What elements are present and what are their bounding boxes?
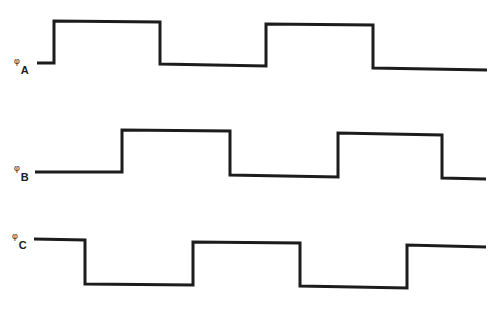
phi-symbol: φ: [14, 163, 20, 173]
phase-b-subscript: B: [21, 171, 29, 183]
phase-c-waveform: [34, 239, 486, 288]
phase-c-subscript: C: [19, 239, 27, 251]
phase-b-label: φB: [14, 164, 28, 180]
phase-a-waveform: [37, 21, 487, 70]
phase-a-subscript: A: [21, 64, 29, 76]
timing-diagram: [0, 0, 502, 309]
phi-symbol: φ: [12, 231, 18, 241]
phase-c-label: φC: [12, 232, 26, 248]
phi-symbol: φ: [14, 56, 20, 66]
phase-a-label: φA: [14, 57, 28, 73]
phase-b-waveform: [35, 130, 486, 179]
